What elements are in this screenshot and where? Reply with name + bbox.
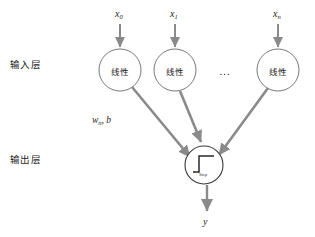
input-variable-xn: xn [273,8,281,19]
input-variable-x0-subscript: 0 [119,13,122,20]
ellipsis-label: ... [219,65,230,77]
input-arrows [120,24,278,47]
diagram-graphics [0,0,315,237]
input-layer-label: 输入层 [10,57,41,71]
input-node-2-label: 线性 [269,65,287,77]
weight-bias-label: wn, b [92,115,111,125]
output-layer-label: 输出层 [10,152,41,166]
output-variable-y: y [203,216,207,227]
diagram-canvas: 输入层 输出层 x0 x1 xn 线性 线性 线性 ... wn, b Step… [0,0,315,237]
input-variable-xn-subscript: n [277,13,280,20]
step-activation-caption: Step [199,172,207,177]
weight-subscript: n [98,119,101,126]
connection-arrow-2 [219,88,268,155]
input-variable-x1: x1 [170,8,178,19]
input-variable-x0: x0 [115,8,123,19]
input-variable-x1-subscript: 1 [174,13,177,20]
connection-arrow-1 [180,91,201,142]
weight-rest: , b [102,115,112,125]
input-node-1-label: 线性 [166,65,184,77]
output-node [185,146,223,184]
input-node-0-label: 线性 [111,65,129,77]
